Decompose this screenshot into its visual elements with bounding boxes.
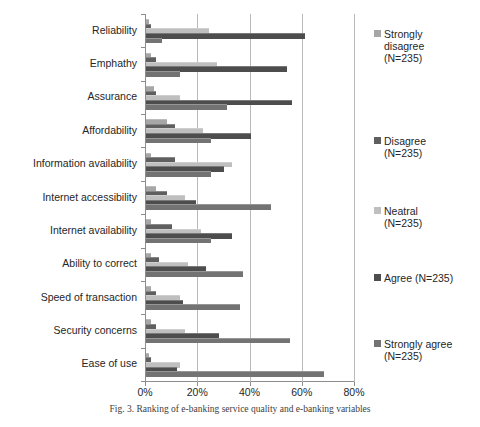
bar-row [146, 371, 354, 376]
category-label-reliability: Reliability [92, 25, 137, 36]
bar[interactable] [146, 238, 211, 244]
bar-group [146, 314, 354, 347]
category-label-affordability: Affordability [82, 125, 137, 136]
bar-group [146, 47, 354, 80]
x-axis-tick-labels: 0%20%40%60%80% [0, 386, 480, 400]
y-axis-tick [141, 114, 145, 115]
legend-swatch-icon [374, 274, 381, 281]
y-axis-tick [141, 381, 145, 382]
y-axis-tick [141, 248, 145, 249]
category-label-ease-of-use: Ease of use [82, 358, 137, 369]
x-axis-tick-label: 60% [291, 386, 312, 398]
bar-group [146, 181, 354, 214]
bar-group [146, 248, 354, 281]
gridline [354, 14, 355, 382]
x-axis-tick-label: 0% [137, 386, 152, 398]
figure-container: ReliabilityEmphathyAssuranceAffordabilit… [0, 0, 480, 427]
bar[interactable] [146, 204, 271, 210]
bar-group [146, 348, 354, 381]
bar-row [146, 338, 354, 343]
category-label-speed-of-transaction: Speed of transaction [41, 292, 137, 303]
legend-item[interactable]: Neatral(N=235) [374, 205, 422, 229]
legend-item[interactable]: Agree (N=235) [374, 272, 453, 284]
y-axis-tick [141, 314, 145, 315]
bar-row [146, 38, 354, 43]
bar-row [146, 204, 354, 209]
category-label-emphathy: Emphathy [90, 58, 137, 69]
bar-group [146, 14, 354, 47]
y-axis-tick [141, 81, 145, 82]
bar-row [146, 238, 354, 243]
bar[interactable] [146, 271, 243, 277]
bar-row [146, 71, 354, 76]
bar-row [146, 138, 354, 143]
bar-group [146, 281, 354, 314]
legend-item[interactable]: Strongly agree(N=235) [374, 338, 452, 362]
bar-row [146, 304, 354, 309]
bar[interactable] [146, 304, 240, 310]
category-label-information-availability: Information availability [33, 158, 137, 169]
y-axis-tick [141, 281, 145, 282]
legend-item[interactable]: Stronglydisagree(N=235) [374, 28, 424, 64]
y-axis-tick [141, 14, 145, 15]
bar-row [146, 271, 354, 276]
bar-groups [146, 14, 354, 381]
x-axis-tick-label: 40% [239, 386, 260, 398]
bar-row [146, 104, 354, 109]
legend-swatch-icon [374, 207, 381, 214]
bar-row [146, 171, 354, 176]
y-axis-tick [141, 47, 145, 48]
y-axis-tick [141, 348, 145, 349]
y-axis-tick [141, 147, 145, 148]
x-axis-tick-label: 80% [343, 386, 364, 398]
category-label-assurance: Assurance [87, 91, 137, 102]
bar-group [146, 114, 354, 147]
chart-legend: Stronglydisagree(N=235)Disagree(N=235)Ne… [374, 20, 478, 380]
legend-label: Disagree(N=235) [384, 135, 426, 159]
bar[interactable] [146, 104, 227, 110]
bar-group [146, 147, 354, 180]
category-label-ability-to-correct: Ability to correct [62, 258, 137, 269]
legend-label: Stronglydisagree(N=235) [384, 28, 424, 64]
figure-caption: Fig. 3. Ranking of e-banking service qua… [0, 404, 480, 427]
legend-label: Neatral(N=235) [384, 205, 422, 229]
x-axis-tick-label: 20% [187, 386, 208, 398]
bar[interactable] [146, 371, 324, 377]
bar[interactable] [146, 38, 162, 44]
legend-swatch-icon [374, 340, 381, 347]
legend-item[interactable]: Disagree(N=235) [374, 135, 426, 159]
category-label-security-concerns: Security concerns [54, 325, 137, 336]
legend-label: Agree (N=235) [384, 272, 453, 284]
y-axis-tick [141, 214, 145, 215]
y-axis-tick [141, 181, 145, 182]
bar[interactable] [146, 171, 211, 177]
legend-swatch-icon [374, 137, 381, 144]
bar[interactable] [146, 138, 211, 144]
bar[interactable] [146, 338, 290, 344]
legend-swatch-icon [374, 30, 381, 37]
chart-plot-area [145, 14, 354, 382]
category-label-internet-accessibility: Internet accessibility [42, 192, 137, 203]
category-label-internet-availability: Internet availability [50, 225, 137, 236]
bar-group [146, 214, 354, 247]
legend-label: Strongly agree(N=235) [384, 338, 452, 362]
bar-group [146, 81, 354, 114]
bar[interactable] [146, 71, 180, 77]
category-axis-labels: ReliabilityEmphathyAssuranceAffordabilit… [0, 14, 141, 382]
